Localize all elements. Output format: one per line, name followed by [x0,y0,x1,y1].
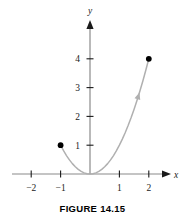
figure-caption: FIGURE 14.15 [0,203,185,213]
figure-container: −2 −1 1 2 1 2 3 4 x y FIGURE 14.15 [0,0,185,213]
x-tick-label-1: 1 [117,183,122,193]
x-axis-label: x [173,170,179,180]
y-tick-label-4: 4 [75,54,80,64]
curve-start-point [58,142,64,148]
curve-direction-arrow-icon [135,92,141,100]
y-tick-label-2: 2 [75,112,80,122]
x-tick-label-neg2: −2 [26,183,36,193]
y-tick-label-1: 1 [75,141,80,151]
x-axis-arrow-icon [162,170,171,177]
y-axis-arrow-icon [86,20,93,29]
y-axis-label: y [87,6,93,16]
x-tick-label-2: 2 [146,183,151,193]
y-tick-label-3: 3 [75,83,80,93]
parabola-plot: −2 −1 1 2 1 2 3 4 x y [0,0,185,205]
parabola-curve [61,59,149,174]
curve-end-point [146,56,152,62]
x-tick-label-neg1: −1 [56,183,66,193]
